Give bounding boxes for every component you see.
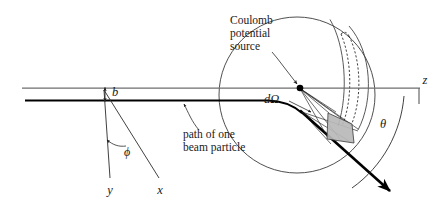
source-leader-stub (272, 52, 277, 58)
x-axis-label: x (156, 183, 163, 197)
source-label-line3: source (230, 40, 260, 52)
scattering-diagram-canvas: z θ (0, 0, 436, 205)
transverse-axes-group: y x ϕ (104, 90, 163, 197)
path-leader-arrow (184, 104, 199, 130)
source-label-line1: Coulomb (230, 14, 273, 26)
source-leader-arrow (277, 58, 297, 84)
lune-left-meridian (330, 20, 344, 127)
domega-label: dΩ (264, 92, 279, 106)
phi-label: ϕ (124, 145, 130, 159)
x-axis-line (104, 90, 159, 178)
scatter-center-dot (297, 85, 304, 92)
lune-right-meridian (349, 26, 368, 130)
path-label-line1: path of one (183, 128, 235, 141)
z-axis-label: z (422, 73, 428, 87)
path-label-line2: beam particle (183, 141, 245, 154)
lune-dashed-meridian-inner (341, 34, 350, 126)
incident-beam-group (25, 101, 302, 114)
scattering-diagram-figure: z θ (0, 0, 436, 205)
y-axis-label: y (105, 183, 113, 197)
lune-dashed-meridian-outer (349, 36, 359, 128)
coulomb-source-annotation: Coulomb potential source (230, 14, 303, 91)
source-label-line2: potential (230, 27, 270, 40)
theta-label: θ (380, 117, 386, 131)
cone-ray-1 (300, 89, 329, 114)
impact-parameter-label: b (112, 85, 118, 99)
incident-beam-path (25, 101, 302, 114)
beam-path-annotation: path of one beam particle (183, 104, 245, 154)
y-axis-line (104, 90, 110, 178)
z-axis-group: z (22, 73, 428, 104)
